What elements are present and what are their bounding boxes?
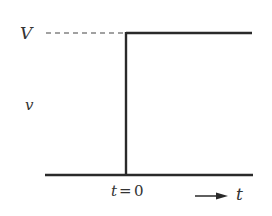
v-level-label: V (20, 23, 34, 43)
time-zero-t: t (111, 182, 118, 200)
variable-label: v (25, 96, 34, 114)
time-axis-label: t (236, 184, 243, 204)
time-zero-equals: = (119, 182, 132, 200)
time-arrow-head-icon (216, 193, 228, 200)
time-zero-value: 0 (134, 182, 144, 200)
step-diagram: V v t = 0 t (0, 0, 272, 216)
